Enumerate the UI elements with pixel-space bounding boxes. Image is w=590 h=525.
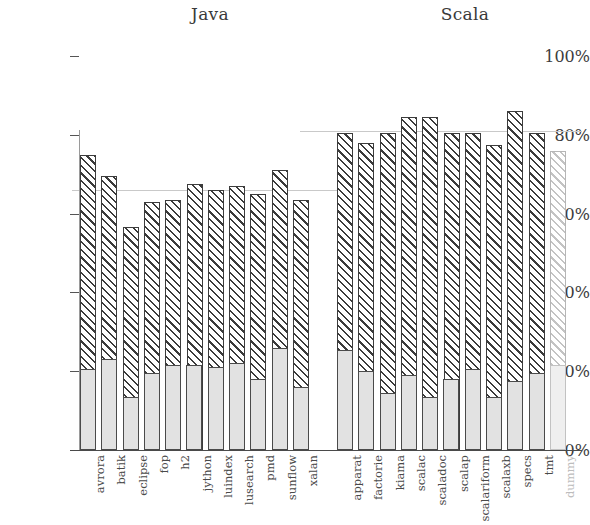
x-label-scalap: scalap (457, 455, 471, 525)
bar-lower-pmd (250, 379, 266, 450)
bar-factorie (358, 143, 374, 450)
x-label-eclipse: eclipse (136, 455, 150, 525)
x-label-tmt: tmt (542, 455, 556, 525)
x-label-apparat: apparat (350, 455, 364, 525)
bar-jython (187, 184, 203, 450)
bar-h2 (165, 200, 181, 450)
x-label-kiama: kiama (393, 455, 407, 525)
bar-avrora (80, 155, 96, 451)
x-label-batik: batik (114, 455, 128, 525)
bar-lower-tmt (529, 373, 545, 450)
x-label-xalan: xalan (306, 455, 320, 525)
bar-xalan (293, 200, 309, 450)
bar-lower-h2 (165, 365, 181, 450)
x-label-scaladoc: scaladoc (435, 455, 449, 525)
x-label-factorie: factorie (371, 455, 385, 525)
bar-eclipse (123, 227, 139, 450)
x-label-jython: jython (200, 455, 214, 525)
bar-fop (144, 202, 160, 450)
bar-batik (101, 176, 117, 450)
bar-kiama (380, 133, 396, 450)
bar-lower-apparat (337, 350, 353, 450)
x-label-scalaxb: scalaxb (499, 455, 513, 525)
bar-lower-xalan (293, 387, 309, 450)
bar-tmt (529, 133, 545, 450)
x-label-specs: specs (520, 455, 534, 525)
x-axis-line (70, 450, 582, 451)
bar-luindex (208, 190, 224, 450)
bar-scalap (444, 133, 460, 450)
bar-lower-scalap (443, 379, 459, 450)
bar-lower-luindex (208, 367, 224, 450)
bar-pmd (250, 194, 266, 450)
bar-lusearch (229, 186, 245, 450)
bar-lower-kiama (380, 393, 396, 450)
bar-sunflow (272, 170, 288, 450)
bar-lower-scalariform (465, 369, 481, 450)
bar-scalac (401, 117, 417, 450)
bar-scalariform (465, 133, 481, 450)
bar-scaladoc (422, 117, 438, 450)
bar-specs (507, 111, 523, 450)
x-label-scalac: scalac (414, 455, 428, 525)
x-label-avrora: avrora (93, 455, 107, 525)
bar-lower-batik (101, 359, 117, 450)
bar-lower-specs (507, 381, 523, 450)
x-label-scalariform: scalariform (478, 455, 492, 525)
x-label-pmd: pmd (263, 455, 277, 525)
x-label-fop: fop (157, 455, 171, 525)
bar-lower-lusearch (229, 363, 245, 450)
x-label-h2: h2 (178, 455, 192, 525)
x-label-lusearch: lusearch (242, 455, 256, 525)
bar-lower-jython (186, 365, 202, 450)
bar-lower-fop (144, 373, 160, 450)
bar-lower-scaladoc (422, 397, 438, 450)
bar-lower-factorie (358, 371, 374, 450)
bar-lower-scalac (401, 375, 417, 450)
bar-lower-eclipse (123, 397, 139, 450)
scala-mean-line (300, 131, 582, 132)
bar-dummy (550, 151, 566, 450)
bar-lower-sunflow (272, 348, 288, 450)
y-tick-label-100: 100% (524, 47, 590, 66)
bar-scalaxb (486, 145, 502, 450)
bar-lower-avrora (80, 369, 96, 450)
bar-lower-dummy (550, 365, 566, 450)
x-label-dummy: dummy (563, 455, 577, 525)
x-label-sunflow: sunflow (285, 455, 299, 525)
bar-lower-scalaxb (486, 397, 502, 450)
bar-apparat (337, 133, 353, 450)
x-label-luindex: luindex (221, 455, 235, 525)
y-tick-mark-100 (70, 56, 79, 57)
